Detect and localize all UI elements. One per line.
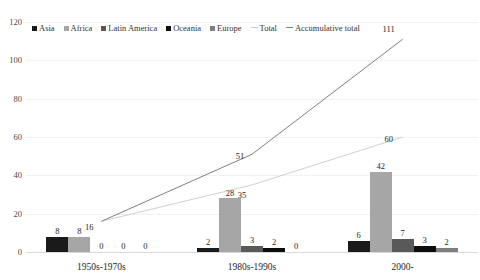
y-axis-tick-label: 60 — [0, 132, 22, 142]
bar-group: 88000 — [31, 237, 171, 252]
x-axis-category-label: 1950s-1970s — [77, 262, 126, 272]
line-point-value-label: 51 — [236, 151, 245, 161]
y-axis-tick-label: 0 — [0, 247, 22, 257]
bar-rect — [370, 172, 392, 253]
y-axis-tick-label: 40 — [0, 170, 22, 180]
bar-oceania[interactable]: 2 — [263, 248, 285, 252]
bar-latin-america[interactable]: 7 — [392, 239, 414, 252]
bar-rect — [68, 237, 90, 252]
bar-rect — [263, 248, 285, 252]
y-axis-tick-label: 80 — [0, 94, 22, 104]
bar-group: 642732 — [333, 172, 473, 253]
bar-rect — [436, 248, 458, 252]
bar-oceania[interactable]: 3 — [414, 246, 436, 252]
line-point-value-label: 16 — [85, 222, 94, 232]
bar-group: 228320 — [182, 198, 322, 252]
bar-value-label: 2 — [272, 238, 276, 248]
line-point-value-label: 35 — [238, 190, 247, 200]
line-point-value-label: 111 — [383, 24, 395, 34]
bar-latin-america[interactable]: 3 — [241, 246, 263, 252]
bar-europe[interactable]: 2 — [436, 248, 458, 252]
bar-value-label: 3 — [423, 236, 427, 246]
bar-value-label: 3 — [250, 236, 254, 246]
bar-value-label: 42 — [376, 162, 385, 172]
bar-value-label: 0 — [143, 242, 147, 252]
bar-africa[interactable]: 8 — [68, 237, 90, 252]
y-axis: 020406080100120 — [0, 0, 22, 280]
y-axis-tick-label: 20 — [0, 209, 22, 219]
bar-value-label: 7 — [401, 229, 405, 239]
combo-chart: 020406080100120 AsiaAfricaLatin AmericaO… — [0, 0, 480, 280]
plot-area: 880001950s-1970s2283201980s-1990s6427322… — [26, 0, 478, 280]
bar-rect — [414, 246, 436, 252]
bar-value-label: 0 — [121, 242, 125, 252]
bar-rect — [392, 239, 414, 252]
bar-value-label: 28 — [226, 189, 235, 199]
x-axis-category-label: 2000- — [392, 262, 414, 272]
bar-africa[interactable]: 42 — [370, 172, 392, 253]
bar-rect — [46, 237, 68, 252]
y-axis-tick-label: 100 — [0, 55, 22, 65]
bar-value-label: 8 — [77, 227, 81, 237]
y-axis-tick-label: 120 — [0, 17, 22, 27]
bar-value-label: 2 — [206, 238, 210, 248]
bar-value-label: 0 — [99, 242, 103, 252]
bar-africa[interactable]: 28 — [219, 198, 241, 252]
line-point-value-label: 60 — [384, 134, 393, 144]
bar-value-label: 2 — [445, 238, 449, 248]
bar-asia[interactable]: 2 — [197, 248, 219, 252]
bar-asia[interactable]: 6 — [348, 241, 370, 253]
bar-rect — [348, 241, 370, 253]
x-axis-category-label: 1980s-1990s — [228, 262, 277, 272]
bar-asia[interactable]: 8 — [46, 237, 68, 252]
bar-value-label: 8 — [55, 227, 59, 237]
bar-value-label: 0 — [294, 242, 298, 252]
bar-value-label: 6 — [357, 231, 361, 241]
bar-rect — [241, 246, 263, 252]
bar-rect — [197, 248, 219, 252]
bar-rect — [219, 198, 241, 252]
